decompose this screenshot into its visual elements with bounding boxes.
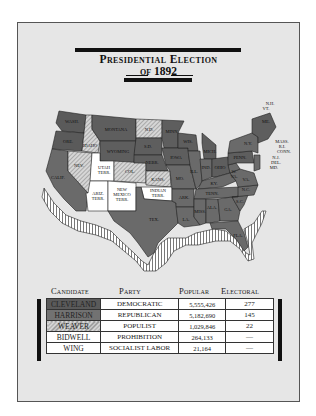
results-table: CLEVELAND DEMOCRATIC 5,555,426 277 HARRI… — [46, 298, 274, 354]
svg-text:TENN.: TENN. — [205, 191, 218, 196]
svg-text:S.D.: S.D. — [144, 144, 152, 149]
title-left-rule — [126, 75, 148, 76]
svg-text:KANS.: KANS. — [151, 177, 164, 182]
svg-text:ILL.: ILL. — [190, 169, 198, 174]
svg-text:MONTANA: MONTANA — [105, 127, 128, 132]
svg-text:WYOMING: WYOMING — [107, 149, 130, 154]
title-line-1: Presidential Election — [18, 53, 299, 65]
header-party: Party — [119, 286, 141, 296]
table-row: CLEVELAND DEMOCRATIC 5,555,426 277 — [47, 299, 274, 310]
candidate-cell: HARRISON — [47, 310, 101, 321]
svg-text:OHIO: OHIO — [214, 165, 226, 170]
candidate-cell: WEAVER — [47, 321, 101, 332]
svg-text:VT.: VT. — [263, 106, 270, 111]
svg-text:CALIF.: CALIF. — [51, 175, 65, 180]
poster-frame: Presidential Election of 1892 — [17, 22, 300, 402]
svg-text:ARK.: ARK. — [179, 195, 190, 200]
svg-text:TERR.: TERR. — [92, 196, 105, 201]
svg-text:TEX.: TEX. — [149, 217, 159, 222]
candidate-cell: BIDWELL — [47, 332, 101, 343]
svg-text:MD.: MD. — [270, 165, 278, 170]
popular-cell: 1,029,846 — [179, 321, 226, 332]
svg-text:TERR.: TERR. — [152, 193, 165, 198]
table-row: WING SOCIALIST LABOR 21,164 — — [47, 343, 274, 354]
candidate-cell: WING — [47, 343, 101, 354]
electoral-cell: — — [226, 332, 274, 343]
svg-text:MISS.: MISS. — [194, 209, 206, 214]
table-row: BIDWELL PROHIBITION 264,133 — — [47, 332, 274, 343]
svg-text:IND.: IND. — [201, 165, 210, 170]
svg-text:VA.: VA. — [230, 174, 237, 179]
svg-text:MINN.: MINN. — [165, 129, 178, 134]
popular-cell: 21,164 — [179, 343, 226, 354]
svg-text:WASH.: WASH. — [65, 119, 79, 124]
party-cell: POPULIST — [101, 321, 179, 332]
svg-text:IDAHO: IDAHO — [83, 143, 98, 148]
svg-text:IOWA: IOWA — [170, 155, 182, 160]
svg-text:KY.: KY. — [210, 181, 217, 186]
table-row: WEAVER POPULIST 1,029,846 22 — [47, 321, 274, 332]
title-bottom-rule — [124, 78, 192, 82]
svg-text:FLA.: FLA. — [233, 233, 243, 238]
header-electoral: Electoral — [221, 286, 259, 296]
svg-text:GA.: GA. — [224, 207, 232, 212]
popular-cell: 264,133 — [179, 332, 226, 343]
svg-text:NEBR.: NEBR. — [145, 160, 158, 165]
title-right-rule — [171, 75, 193, 76]
title-line-2: of 1892 — [18, 65, 299, 77]
party-cell: REPUBLICAN — [101, 310, 179, 321]
table-row: HARRISON REPUBLICAN 5,182,690 145 — [47, 310, 274, 321]
svg-text:N.D.: N.D. — [145, 127, 154, 132]
svg-text:N.C.: N.C. — [242, 187, 251, 192]
svg-text:NEV.: NEV. — [74, 163, 84, 168]
svg-text:LA.: LA. — [182, 217, 189, 222]
candidate-cell: CLEVELAND — [47, 299, 101, 310]
svg-text:MO.: MO. — [176, 176, 184, 181]
right-rule — [278, 299, 282, 361]
svg-text:N.Y.: N.Y. — [244, 141, 252, 146]
svg-text:TERR.: TERR. — [116, 197, 129, 202]
svg-text:MICH.: MICH. — [204, 149, 217, 154]
svg-text:PENN.: PENN. — [234, 155, 247, 160]
party-cell: PROHIBITION — [101, 332, 179, 343]
popular-cell: 5,182,690 — [179, 310, 226, 321]
us-map-1892: WASH. ORE. CALIF. NEV. IDAHO MONTANA WYO… — [26, 93, 296, 278]
svg-text:ALA.: ALA. — [207, 205, 217, 210]
title-top-rule — [75, 48, 241, 52]
electoral-cell: 277 — [226, 299, 274, 310]
svg-text:WIS.: WIS. — [183, 139, 192, 144]
header-candidate: Candidate — [51, 286, 89, 296]
svg-text:ORE.: ORE. — [63, 139, 73, 144]
svg-text:S.C.: S.C. — [236, 199, 244, 204]
svg-text:ME.: ME. — [262, 119, 270, 124]
header-popular: Popular — [179, 286, 209, 296]
svg-text:VA.: VA. — [242, 177, 249, 182]
party-cell: DEMOCRATIC — [101, 299, 179, 310]
left-rule — [37, 299, 41, 361]
svg-text:COL.: COL. — [125, 169, 135, 174]
svg-text:CONN.: CONN. — [277, 149, 291, 154]
electoral-cell: — — [226, 343, 274, 354]
electoral-cell: 145 — [226, 310, 274, 321]
svg-text:TERR.: TERR. — [98, 170, 111, 175]
party-cell: SOCIALIST LABOR — [101, 343, 179, 354]
popular-cell: 5,555,426 — [179, 299, 226, 310]
electoral-cell: 22 — [226, 321, 274, 332]
